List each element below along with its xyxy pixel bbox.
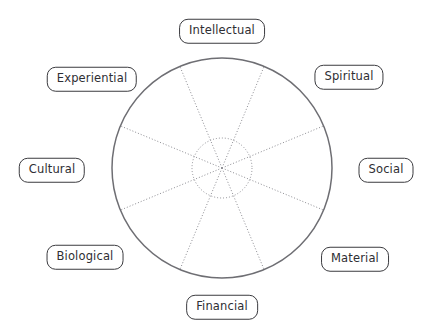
spoke-line <box>120 126 222 168</box>
segment-label-experiential[interactable]: Experiential <box>47 67 137 92</box>
spoke-line <box>222 168 264 270</box>
segment-label-intellectual[interactable]: Intellectual <box>179 19 265 44</box>
spokes-group <box>120 66 323 269</box>
spoke-line <box>222 168 324 210</box>
segment-label-social[interactable]: Social <box>359 158 414 183</box>
spoke-line <box>180 168 222 270</box>
radial-wheel-diagram: Intellectual Spiritual Social Material F… <box>0 0 438 336</box>
spoke-line <box>222 66 264 168</box>
segment-label-spiritual[interactable]: Spiritual <box>314 65 383 90</box>
segment-label-biological[interactable]: Biological <box>47 245 124 270</box>
segment-label-material[interactable]: Material <box>321 247 389 272</box>
segment-label-cultural[interactable]: Cultural <box>19 158 85 183</box>
segment-label-financial[interactable]: Financial <box>186 295 258 320</box>
spoke-line <box>180 66 222 168</box>
spoke-line <box>222 126 324 168</box>
spoke-line <box>120 168 222 210</box>
